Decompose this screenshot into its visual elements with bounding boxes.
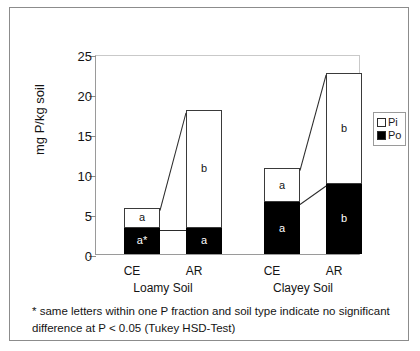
bar-segment-pi-clayey-ce: a (264, 168, 300, 202)
legend-item-po: Po (377, 129, 401, 142)
figure-frame: mg P/kg soil 0510152025 a*aabaabb CEARCE… (9, 7, 409, 341)
legend-swatch-pi-icon (377, 118, 386, 127)
y-axis-tick-label: 15 (78, 130, 92, 143)
x-axis-group-label-0: Loamy Soil (133, 281, 192, 295)
y-axis-tick-label: 0 (85, 250, 92, 263)
bar-segment-pi-loamy-ce: a (124, 208, 160, 228)
x-axis-tick-label-loamy-ar: AR (186, 264, 203, 278)
x-axis-group-label-1: Clayey Soil (273, 281, 333, 295)
connector-total-group-1 (300, 76, 327, 171)
y-axis-tick-label: 20 (78, 90, 92, 103)
y-axis-tick-label: 25 (78, 50, 92, 63)
bar-segment-po-clayey-ar: b (326, 184, 362, 254)
x-axis-tick-label-clayey-ar: AR (326, 264, 343, 278)
legend-label-po: Po (388, 130, 401, 141)
x-axis-tick-label-loamy-ce: CE (124, 264, 141, 278)
bar-segment-po-loamy-ce: a* (124, 228, 160, 254)
y-axis-tick-label: 10 (78, 170, 92, 183)
legend: Pi Po (373, 112, 406, 146)
legend-label-pi: Pi (388, 117, 398, 128)
footnote-line-2: difference at P < 0.05 (Tukey HSD-Test) (32, 320, 408, 337)
bar-segment-po-loamy-ar: a (186, 228, 222, 254)
connector-po-group-1 (300, 186, 327, 205)
footnote: * same letters within one P fraction and… (32, 303, 408, 337)
footnote-line-1: * same letters within one P fraction and… (32, 303, 408, 320)
connector-po-group-0 (160, 230, 186, 231)
legend-swatch-po-icon (377, 131, 386, 140)
bar-loamy-ce[interactable]: a*a (124, 208, 160, 254)
connector-total-group-0 (160, 112, 187, 210)
plot-area: 0510152025 a*aabaabb (95, 55, 360, 255)
bar-clayey-ar[interactable]: bb (326, 73, 362, 254)
x-axis-tick-label-clayey-ce: CE (264, 264, 281, 278)
y-axis-title: mg P/kg soil (32, 84, 47, 155)
bar-segment-pi-loamy-ar: b (186, 110, 222, 228)
bar-loamy-ar[interactable]: ab (186, 110, 222, 254)
chart-figure: mg P/kg soil 0510152025 a*aabaabb CEARCE… (0, 0, 420, 351)
bar-clayey-ce[interactable]: aa (264, 168, 300, 254)
bar-segment-po-clayey-ce: a (264, 202, 300, 254)
y-axis-tick-label: 5 (85, 210, 92, 223)
legend-item-pi: Pi (377, 116, 401, 129)
bar-segment-pi-clayey-ar: b (326, 73, 362, 183)
